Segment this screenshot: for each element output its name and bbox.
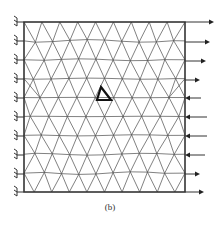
fixed-support-icon [14,111,24,121]
fixed-support-icon [14,73,24,83]
fixed-support-icon [14,130,24,140]
fixed-support-icon [14,186,24,196]
arrow-right-icon [185,20,214,25]
arrow-right-icon [185,78,200,83]
fixed-support-icon [14,54,24,64]
fixed-support-icon [14,149,24,159]
fixed-support-icon [14,35,24,45]
domain-boundary [24,22,185,192]
arrow-left-icon [185,115,207,120]
load-arrows-right [185,20,214,195]
arrow-right-icon [185,190,204,195]
arrow-right-icon [185,40,210,45]
triangular-mesh [24,22,185,192]
arrow-right-icon [185,59,206,64]
fixed-support-icon [14,168,24,178]
fixed-support-icon [14,16,24,26]
arrow-left-icon [185,134,207,139]
arrow-left-icon [185,96,201,101]
arrow-left-icon [185,153,205,158]
mesh-diagram [0,0,220,226]
arrow-right-icon [185,172,200,177]
fixed-supports-left [14,16,24,196]
fixed-support-icon [14,92,24,102]
figure-caption: (b) [0,202,220,212]
mesh-figure: (b) [0,0,220,226]
